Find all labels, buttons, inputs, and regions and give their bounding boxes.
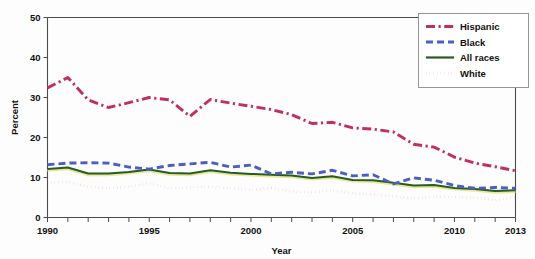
legend-label-hispanic: Hispanic <box>460 21 500 32</box>
y-tick-label: 40 <box>30 52 41 63</box>
y-tick-label: 50 <box>30 12 41 23</box>
x-tick-label: 2010 <box>444 225 465 236</box>
legend-label-white: White <box>460 68 486 79</box>
x-tick-label: 2000 <box>240 225 261 236</box>
x-tick-label: 2005 <box>342 225 364 236</box>
y-tick-label: 10 <box>30 172 41 183</box>
legend-label-black: Black <box>460 37 486 48</box>
legend-label-all-races: All races <box>460 52 500 63</box>
y-tick-label: 30 <box>30 92 41 103</box>
x-tick-label: 1995 <box>139 225 161 236</box>
y-axis-title: Percent <box>9 99 20 135</box>
chart-figure: 01020304050199019952000200520102013Perce… <box>0 0 535 259</box>
x-tick-label: 1990 <box>37 225 58 236</box>
y-tick-label: 20 <box>30 132 41 143</box>
x-tick-label: 2013 <box>505 225 526 236</box>
line-chart: 01020304050199019952000200520102013Perce… <box>0 0 535 259</box>
x-axis-title: Year <box>271 245 291 256</box>
y-tick-label: 0 <box>35 212 40 223</box>
